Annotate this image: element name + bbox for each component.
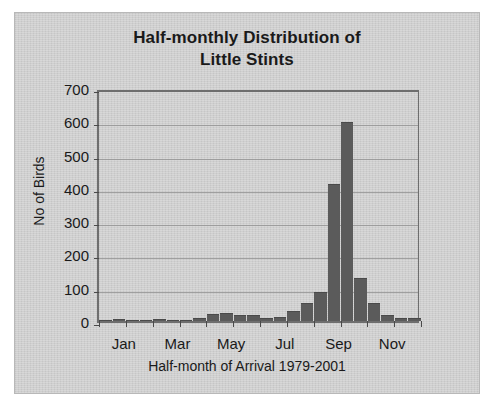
bar bbox=[368, 303, 380, 321]
x-tick-mark bbox=[341, 321, 342, 327]
x-tick-mark bbox=[287, 321, 288, 327]
x-tick-label: Jul bbox=[255, 335, 315, 352]
bar bbox=[113, 319, 125, 322]
y-tick-label: 200 bbox=[29, 247, 89, 264]
bar bbox=[207, 314, 219, 321]
x-tick-mark bbox=[153, 321, 154, 327]
x-tick-mark bbox=[421, 321, 422, 327]
bar bbox=[287, 311, 299, 321]
chart-title-line1: Half-monthly Distribution of bbox=[133, 28, 361, 47]
y-tick-label: 100 bbox=[29, 281, 89, 298]
x-tick-mark bbox=[180, 321, 181, 327]
bar bbox=[220, 313, 232, 321]
y-tick-label: 300 bbox=[29, 214, 89, 231]
x-tick-label: Mar bbox=[148, 335, 208, 352]
bar bbox=[328, 184, 340, 321]
bar bbox=[193, 318, 205, 321]
x-tick-label: Jan bbox=[94, 335, 154, 352]
bar bbox=[341, 122, 353, 321]
chart-panel: Half-monthly Distribution of Little Stin… bbox=[14, 12, 480, 394]
x-axis-title: Half-month of Arrival 1979-2001 bbox=[15, 358, 479, 374]
bar bbox=[234, 315, 246, 321]
x-tick-mark bbox=[394, 321, 395, 327]
bar bbox=[381, 315, 393, 321]
bar bbox=[99, 320, 111, 321]
y-tick-label: 400 bbox=[29, 181, 89, 198]
x-tick-mark bbox=[314, 321, 315, 327]
chart-figure: Half-monthly Distribution of Little Stin… bbox=[0, 0, 496, 406]
y-tick-label: 0 bbox=[29, 314, 89, 331]
bar bbox=[260, 318, 272, 321]
bar-series bbox=[99, 92, 418, 321]
bar bbox=[167, 320, 179, 321]
bar bbox=[314, 292, 326, 321]
bar bbox=[274, 317, 286, 321]
x-tick-label: Nov bbox=[362, 335, 422, 352]
chart-title-line2: Little Stints bbox=[15, 49, 479, 71]
bar bbox=[126, 320, 138, 321]
x-tick-mark bbox=[99, 321, 100, 327]
bar bbox=[301, 303, 313, 321]
x-tick-mark bbox=[126, 321, 127, 327]
bar bbox=[247, 315, 259, 321]
y-tick-label: 600 bbox=[29, 114, 89, 131]
bar bbox=[408, 318, 420, 321]
x-tick-label: Sep bbox=[309, 335, 369, 352]
y-tick-label: 700 bbox=[29, 81, 89, 98]
plot-area bbox=[97, 90, 419, 323]
x-tick-label: May bbox=[201, 335, 261, 352]
bar bbox=[140, 320, 152, 321]
x-tick-mark bbox=[206, 321, 207, 327]
bar bbox=[180, 320, 192, 321]
x-tick-mark bbox=[260, 321, 261, 327]
bar bbox=[395, 318, 407, 321]
x-tick-mark bbox=[233, 321, 234, 327]
chart-title: Half-monthly Distribution of Little Stin… bbox=[15, 27, 479, 71]
bar bbox=[153, 319, 165, 322]
y-tick-label: 500 bbox=[29, 148, 89, 165]
x-tick-mark bbox=[367, 321, 368, 327]
bar bbox=[354, 278, 366, 321]
